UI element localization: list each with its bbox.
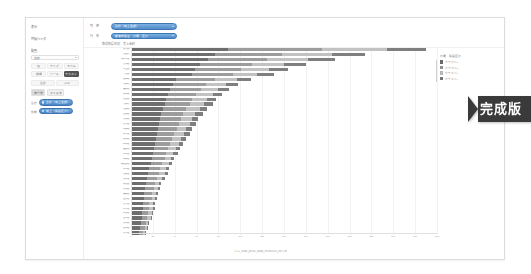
bar-segment[interactable] bbox=[170, 88, 201, 91]
bar-segment[interactable] bbox=[284, 63, 306, 66]
bar-segment[interactable] bbox=[132, 58, 208, 61]
bar-segment[interactable] bbox=[132, 127, 158, 130]
bar-row[interactable] bbox=[132, 226, 437, 229]
bar-segment[interactable] bbox=[154, 147, 168, 150]
bar-segment[interactable] bbox=[132, 142, 155, 145]
bar-row[interactable] bbox=[132, 162, 437, 165]
bar-row[interactable] bbox=[132, 127, 437, 130]
bar-segment[interactable] bbox=[200, 107, 208, 110]
bar-row[interactable] bbox=[132, 48, 437, 51]
bar-segment[interactable] bbox=[132, 48, 228, 51]
legend-item[interactable]: カテゴリ2 bbox=[440, 66, 496, 70]
mark-text-button[interactable]: テキスト bbox=[64, 71, 79, 77]
bar-segment[interactable] bbox=[166, 167, 169, 170]
bar-segment[interactable] bbox=[158, 187, 160, 190]
bar-segment[interactable] bbox=[145, 187, 154, 190]
bar-segment[interactable] bbox=[132, 132, 157, 135]
bar-segment[interactable] bbox=[190, 122, 197, 125]
bar-segment[interactable] bbox=[132, 197, 144, 200]
bar-segment[interactable] bbox=[132, 93, 168, 96]
bar-segment[interactable] bbox=[132, 63, 200, 66]
bar-segment[interactable] bbox=[186, 107, 199, 110]
bar-segment[interactable] bbox=[204, 102, 213, 105]
bar-segment[interactable] bbox=[147, 226, 148, 229]
bar-segment[interactable] bbox=[151, 216, 152, 219]
bar-segment[interactable] bbox=[179, 142, 183, 145]
bar-segment[interactable] bbox=[195, 68, 241, 71]
bar-segment[interactable] bbox=[151, 162, 163, 165]
bar-segment[interactable] bbox=[132, 157, 152, 160]
bar-segment[interactable] bbox=[183, 112, 195, 115]
bar-segment[interactable] bbox=[132, 152, 153, 155]
bar-segment[interactable] bbox=[192, 73, 233, 76]
bar-segment[interactable] bbox=[162, 177, 164, 180]
bar-row[interactable] bbox=[132, 172, 437, 175]
legend-item[interactable]: カテゴリ3 bbox=[440, 71, 496, 75]
bar-row[interactable] bbox=[132, 187, 437, 190]
mark-label-button[interactable]: ラベル bbox=[64, 63, 79, 69]
bar-segment[interactable] bbox=[192, 117, 199, 120]
bar-segment[interactable] bbox=[149, 167, 160, 170]
bar-segment[interactable] bbox=[181, 117, 192, 120]
bar-segment[interactable] bbox=[155, 142, 170, 145]
mark-detail-button[interactable]: 詳細 bbox=[31, 71, 46, 77]
bar-segment[interactable] bbox=[192, 98, 207, 101]
bar-row[interactable] bbox=[132, 83, 437, 86]
bar-row[interactable] bbox=[132, 167, 437, 170]
bar-row[interactable] bbox=[132, 102, 437, 105]
bar-segment[interactable] bbox=[132, 162, 151, 165]
field-pill-sales-total[interactable]: 合計（売上金額） bbox=[39, 99, 73, 106]
bar-segment[interactable] bbox=[226, 83, 238, 86]
bar-segment[interactable] bbox=[146, 182, 155, 185]
bar-segment[interactable] bbox=[257, 73, 273, 76]
bar-segment[interactable] bbox=[159, 122, 179, 125]
bar-segment[interactable] bbox=[387, 48, 426, 51]
bar-segment[interactable] bbox=[132, 102, 165, 105]
bar-segment[interactable] bbox=[147, 177, 157, 180]
bar-segment[interactable] bbox=[132, 177, 147, 180]
bar-segment[interactable] bbox=[174, 132, 184, 135]
mark-type-select[interactable]: 自動 bbox=[31, 55, 79, 60]
bar-segment[interactable] bbox=[184, 132, 189, 135]
bar-segment[interactable] bbox=[132, 207, 143, 210]
bar-segment[interactable] bbox=[152, 157, 165, 160]
bar-row[interactable] bbox=[132, 207, 437, 210]
bar-segment[interactable] bbox=[132, 78, 176, 81]
bar-segment[interactable] bbox=[156, 192, 158, 195]
bar-segment[interactable] bbox=[158, 127, 177, 130]
bar-row[interactable] bbox=[132, 68, 437, 71]
bar-segment[interactable] bbox=[241, 68, 269, 71]
bar-row[interactable] bbox=[132, 93, 437, 96]
bar-segment[interactable] bbox=[132, 122, 159, 125]
bar-segment[interactable] bbox=[132, 112, 161, 115]
bar-row[interactable] bbox=[132, 197, 437, 200]
bar-segment[interactable] bbox=[132, 167, 149, 170]
bar-segment[interactable] bbox=[171, 157, 174, 160]
bar-segment[interactable] bbox=[161, 112, 183, 115]
bar-segment[interactable] bbox=[166, 152, 174, 155]
bar-row[interactable] bbox=[132, 112, 437, 115]
bar-segment[interactable] bbox=[132, 117, 160, 120]
bar-segment[interactable] bbox=[176, 147, 180, 150]
bar-row[interactable] bbox=[132, 58, 437, 61]
bar-segment[interactable] bbox=[132, 172, 148, 175]
bar-segment[interactable] bbox=[195, 112, 203, 115]
bar-row[interactable] bbox=[132, 117, 437, 120]
bar-row[interactable] bbox=[132, 88, 437, 91]
bar-segment[interactable] bbox=[177, 127, 187, 130]
tab-filters[interactable]: フィルタ bbox=[47, 89, 64, 96]
bar-segment[interactable] bbox=[200, 63, 252, 66]
bar-row[interactable] bbox=[132, 53, 437, 56]
bar-segment[interactable] bbox=[215, 53, 283, 56]
mark-tooltip-button[interactable]: ツール bbox=[47, 71, 62, 77]
bar-segment[interactable] bbox=[132, 147, 154, 150]
bar-segment[interactable] bbox=[282, 53, 332, 56]
legend-item[interactable]: カテゴリ1 bbox=[440, 60, 496, 64]
bar-segment[interactable] bbox=[228, 48, 322, 51]
bar-segment[interactable] bbox=[163, 107, 187, 110]
bar-row[interactable] bbox=[132, 216, 437, 219]
bar-segment[interactable] bbox=[173, 152, 177, 155]
bar-segment[interactable] bbox=[148, 172, 159, 175]
bar-segment[interactable] bbox=[132, 83, 173, 86]
bar-segment[interactable] bbox=[148, 221, 149, 224]
